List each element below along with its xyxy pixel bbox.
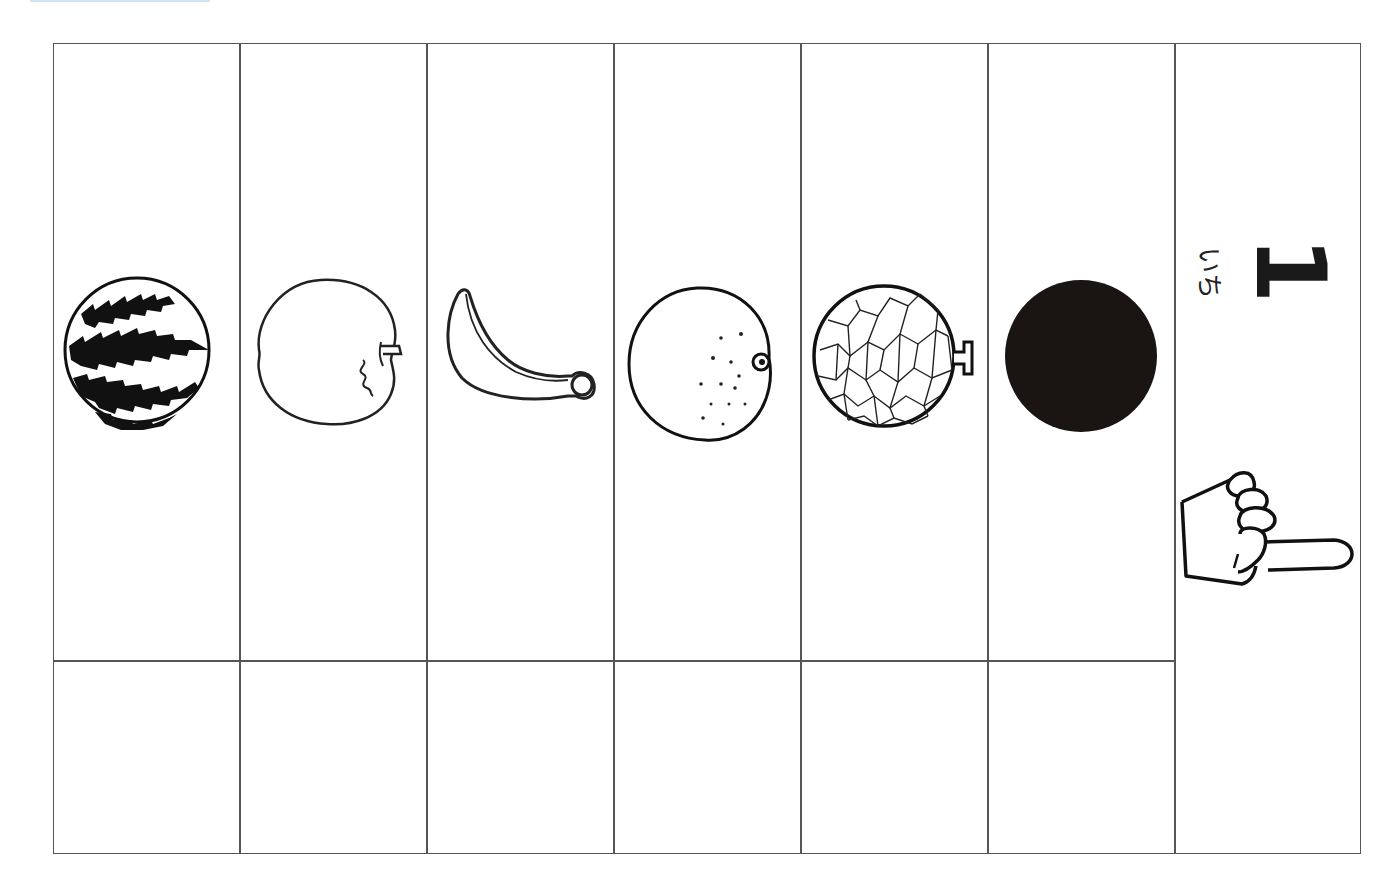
fruit-cell-apple [239, 44, 426, 660]
answer-box-4[interactable] [613, 661, 800, 854]
orange-icon [621, 278, 791, 448]
apple-icon [251, 270, 421, 430]
answer-box-2[interactable] [239, 661, 426, 854]
fruit-cell-melon [800, 44, 987, 660]
fruit-cell-watermelon [53, 44, 240, 660]
fruit-cell-orange [613, 44, 800, 660]
number-reading: いち [1196, 247, 1222, 299]
melon-icon [808, 280, 988, 440]
answer-box-6[interactable] [987, 661, 1174, 854]
watermelon-icon [59, 274, 219, 434]
answer-box-1[interactable] [53, 661, 240, 854]
answer-box-3[interactable] [426, 661, 613, 854]
pointing-hand-icon [1178, 468, 1358, 593]
fruit-cell-banana [426, 44, 613, 660]
black-circle-icon [1002, 280, 1162, 440]
banana-icon [436, 272, 606, 412]
number-panel [1174, 44, 1361, 854]
fruit-cell-black-circle [987, 44, 1174, 660]
answer-box-5[interactable] [800, 661, 987, 854]
top-accent-bar [30, 0, 210, 2]
number-label: 1 いち [1185, 220, 1355, 330]
number-digit: 1 [1218, 225, 1338, 315]
